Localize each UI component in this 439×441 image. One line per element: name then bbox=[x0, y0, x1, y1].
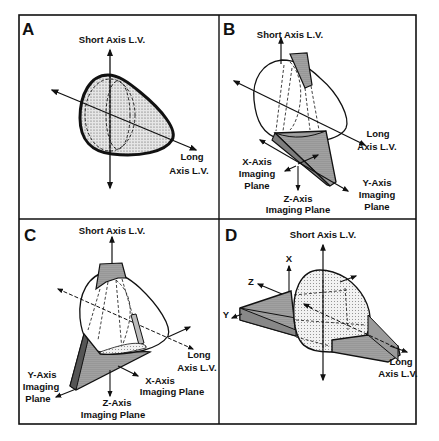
panel-c-z-plane-label-1: Z-Axis bbox=[102, 397, 131, 408]
panel-d-long-axis-label-1: Long bbox=[389, 356, 412, 367]
panel-c-y-plane-label-1: Y-Axis bbox=[27, 369, 56, 380]
panel-b-y-plane-label-3: Plane bbox=[364, 201, 389, 212]
left-ventricle-outline bbox=[80, 272, 169, 354]
panel-b-long-axis-label-1: Long bbox=[366, 128, 389, 139]
panel-c-x-plane-label-1: X-Axis bbox=[145, 375, 175, 386]
x-plane-pointer bbox=[285, 166, 296, 171]
panel-c: C Short Axis L.V. Long Axis L.V. Y-A bbox=[23, 225, 217, 420]
panel-letter-d: D bbox=[225, 226, 237, 245]
panel-a-long-axis-label-1: Long bbox=[180, 151, 203, 162]
panel-c-short-axis-label: Short Axis L.V. bbox=[79, 225, 145, 236]
panel-a: A Short Axis L.V. Long Axis L.V. bbox=[22, 20, 209, 188]
panel-letter-c: C bbox=[24, 226, 36, 245]
panel-b-x-plane-label-2: Imaging bbox=[239, 168, 276, 179]
panel-b-y-plane-label-2: Imaging bbox=[359, 189, 396, 200]
panel-a-short-axis-label: Short Axis L.V. bbox=[79, 34, 145, 45]
panel-b-long-axis-label-2: Axis L.V. bbox=[357, 141, 396, 152]
panel-c-x-plane-label-2: Imaging Plane bbox=[140, 386, 204, 397]
panel-d: D Short Axis L.V. X Z Y Lon bbox=[223, 226, 418, 380]
panel-d-axis-y: Y bbox=[223, 309, 230, 320]
panel-b-y-plane-label-1: Y-Axis bbox=[362, 177, 391, 188]
z-axis-imaging-plane bbox=[275, 131, 336, 186]
panel-b-x-plane-label-1: X-Axis bbox=[242, 156, 272, 167]
panel-d-axis-x: X bbox=[286, 253, 293, 264]
z-axis-arrow bbox=[258, 284, 282, 294]
panel-letter-a: A bbox=[22, 20, 34, 39]
panel-letter-b: B bbox=[223, 20, 235, 39]
panel-c-y-plane-label-2: Imaging bbox=[23, 381, 60, 392]
panel-c-z-plane-label-2: Imaging Plane bbox=[81, 409, 145, 420]
x-plane-pointer bbox=[118, 366, 138, 376]
panel-b-short-axis-label: Short Axis L.V. bbox=[257, 29, 323, 40]
panel-a-long-axis-label-2: Axis L.V. bbox=[169, 165, 208, 176]
panel-d-short-axis-label: Short Axis L.V. bbox=[290, 229, 356, 240]
panel-b: B Short Axis L.V. Long Axis L.V. X-Axis … bbox=[223, 20, 397, 215]
panel-d-long-axis-label-2: Axis L.V. bbox=[378, 368, 417, 379]
panel-c-y-plane-label-3: Plane bbox=[25, 393, 50, 404]
panel-b-z-plane-label-2: Imaging Plane bbox=[266, 204, 330, 215]
panel-c-long-axis-label-2: Axis L.V. bbox=[177, 362, 216, 373]
panel-b-z-plane-label-1: Z-Axis bbox=[283, 193, 312, 204]
panel-d-axis-z: Z bbox=[248, 276, 254, 287]
panel-c-long-axis-label-1: Long bbox=[187, 349, 210, 360]
panel-b-x-plane-label-3: Plane bbox=[244, 180, 269, 191]
four-panel-diagram: A Short Axis L.V. Long Axis L.V. B Short… bbox=[0, 0, 439, 441]
